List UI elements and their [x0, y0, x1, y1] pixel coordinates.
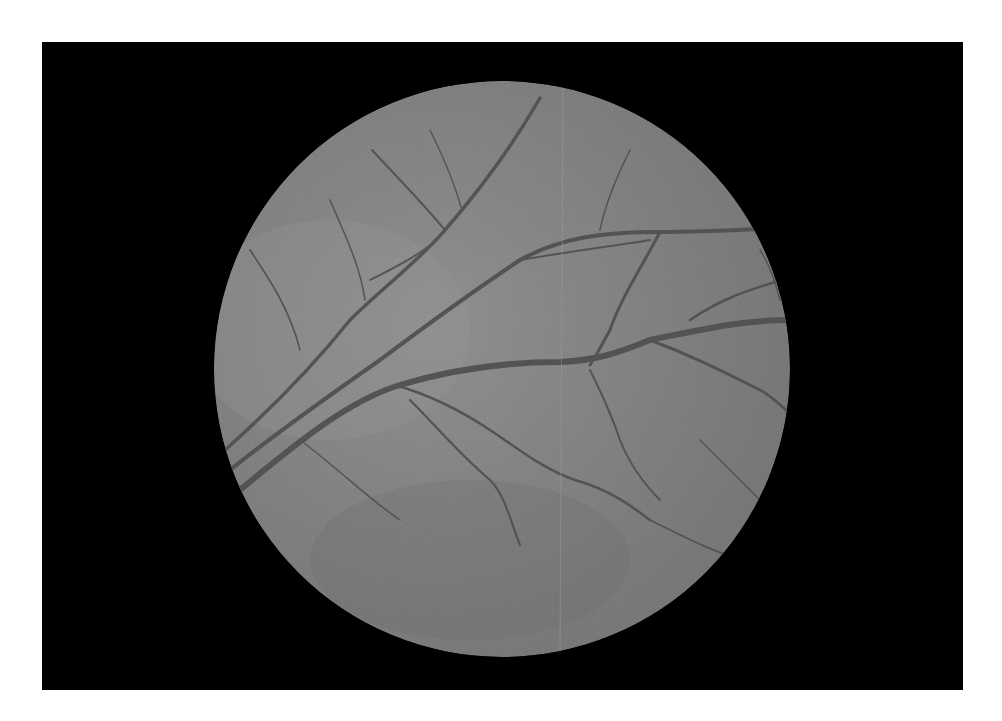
fundus-disc	[190, 75, 810, 665]
image-canvas	[0, 0, 1002, 721]
retina-fundus-image	[0, 0, 1002, 721]
